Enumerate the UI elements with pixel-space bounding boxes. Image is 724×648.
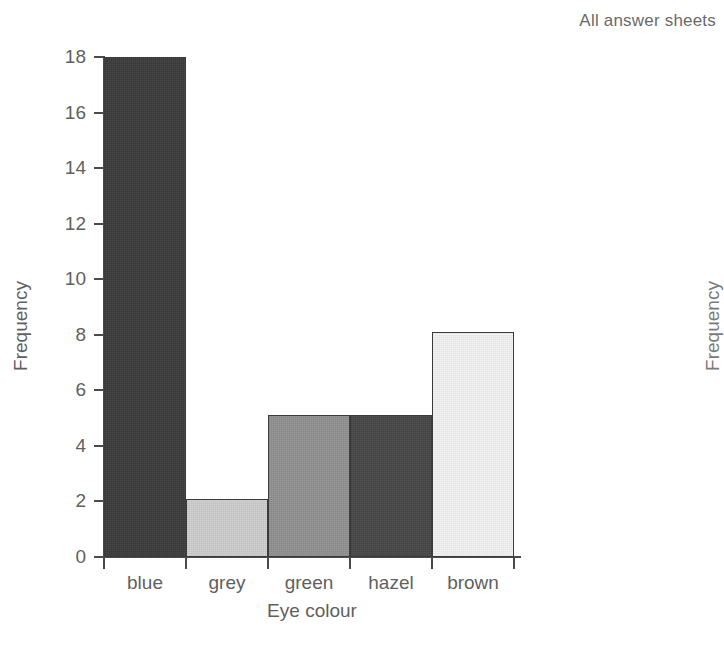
bar-blue (104, 57, 186, 557)
y-tick-label: 8 (52, 324, 86, 346)
y-tick-label: 2 (52, 490, 86, 512)
bar-green (268, 415, 350, 557)
y-tick-12 (94, 223, 103, 225)
bar-grey (186, 499, 268, 557)
x-tick-2 (267, 558, 269, 569)
y-axis-title: Frequency (10, 281, 32, 371)
neighbour-chart-y-axis-title: Frequency (702, 281, 724, 371)
x-label-grey: grey (209, 572, 246, 594)
bar-hazel (350, 415, 432, 557)
y-tick-label: 18 (52, 46, 86, 68)
y-tick-label: 16 (52, 102, 86, 124)
y-tick-label: 4 (52, 435, 86, 457)
x-tick-3 (349, 558, 351, 569)
y-tick-10 (94, 278, 103, 280)
y-tick-14 (94, 167, 103, 169)
y-tick-label: 0 (52, 546, 86, 568)
x-tick-4 (431, 558, 433, 569)
y-tick-4 (94, 445, 103, 447)
y-tick-18 (94, 56, 103, 58)
x-tick-5 (513, 558, 515, 569)
y-tick-label: 14 (52, 157, 86, 179)
y-tick-label: 6 (52, 379, 86, 401)
bar-brown (432, 332, 514, 557)
y-tick-0 (94, 556, 103, 558)
x-label-hazel: hazel (368, 572, 413, 594)
x-axis-title: Eye colour (267, 600, 357, 622)
y-tick-6 (94, 389, 103, 391)
x-label-brown: brown (447, 572, 499, 594)
x-label-blue: blue (127, 572, 163, 594)
histogram-plot: 024681012141618 bluegreygreenhazelbrown … (0, 0, 724, 648)
y-tick-2 (94, 500, 103, 502)
y-tick-label: 10 (52, 268, 86, 290)
x-tick-0 (103, 558, 105, 569)
x-label-green: green (285, 572, 334, 594)
y-tick-label: 12 (52, 213, 86, 235)
y-tick-16 (94, 112, 103, 114)
y-tick-8 (94, 334, 103, 336)
x-tick-1 (185, 558, 187, 569)
chart-page: All answer sheets 024681012141618 bluegr… (0, 0, 724, 648)
